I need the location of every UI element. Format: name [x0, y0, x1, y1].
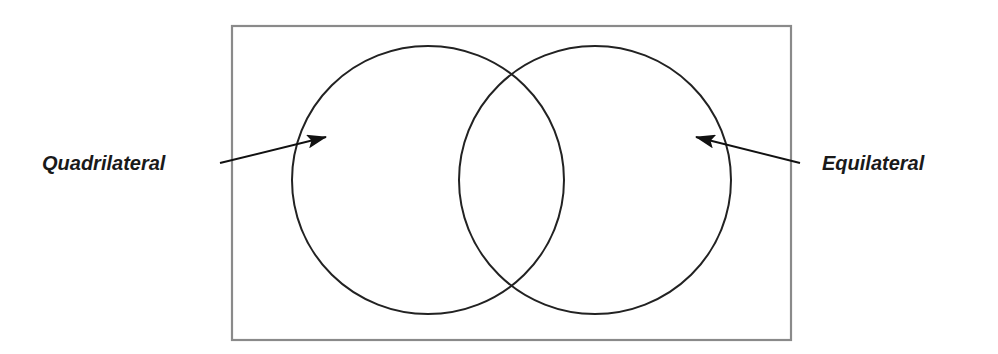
equilateral-label: Equilateral: [822, 153, 924, 173]
quadrilateral-set-circle: [292, 46, 564, 314]
equilateral-set-circle: [459, 46, 731, 314]
quadrilateral-arrow: [220, 137, 326, 163]
venn-diagram-canvas: [0, 0, 998, 354]
quadrilateral-label: Quadrilateral: [42, 153, 165, 173]
equilateral-arrow: [696, 137, 800, 163]
venn-diagram: Quadrilateral Equilateral: [0, 0, 998, 354]
